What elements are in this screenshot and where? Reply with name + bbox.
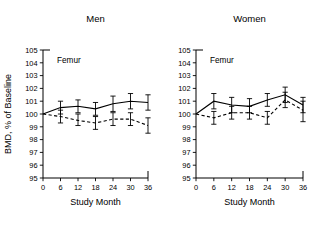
y-tick-label: 96: [29, 161, 37, 170]
x-tick-label: 12: [228, 183, 236, 192]
x-tick-label: 12: [74, 183, 82, 192]
y-tick-label: 101: [25, 97, 37, 106]
y-tick-label: 100: [25, 110, 37, 119]
y-tick-label: 99: [29, 123, 37, 132]
panel-title: Women: [233, 13, 266, 24]
series-solid-line-group: [43, 94, 151, 116]
panel-inner-label: Femur: [57, 56, 81, 65]
y-tick-label: 101: [178, 97, 190, 106]
x-tick-label: 36: [299, 183, 307, 192]
figure-container: 9596979899100101102103104105061218243036…: [0, 0, 319, 228]
x-axis-title: Study Month: [224, 197, 275, 207]
y-tick-label: 97: [182, 148, 190, 157]
y-tick-label: 97: [29, 148, 37, 157]
panel-men: 9596979899100101102103104105061218243036…: [3, 13, 152, 207]
y-tick-label: 102: [178, 84, 190, 93]
y-tick-label: 99: [182, 123, 190, 132]
x-tick-label: 18: [91, 183, 99, 192]
x-tick-label: 0: [41, 183, 45, 192]
chart-svg: 9596979899100101102103104105061218243036…: [0, 0, 319, 228]
y-tick-label: 105: [25, 46, 37, 55]
y-tick-label: 104: [178, 59, 190, 68]
y-tick-label: 105: [178, 46, 190, 55]
y-tick-label: 102: [25, 84, 37, 93]
x-axis-title: Study Month: [70, 197, 121, 207]
y-tick-label: 98: [29, 135, 37, 144]
y-tick-label: 95: [182, 174, 190, 183]
y-tick-label: 103: [25, 71, 37, 80]
series-solid-line-group: [196, 87, 306, 114]
x-tick-label: 36: [144, 183, 152, 192]
panel-title: Men: [86, 13, 104, 24]
x-tick-label: 24: [109, 183, 117, 192]
x-tick-label: 0: [194, 183, 198, 192]
y-tick-label: 100: [178, 110, 190, 119]
x-tick-label: 6: [58, 183, 62, 192]
y-tick-label: 98: [182, 135, 190, 144]
y-tick-label: 96: [182, 161, 190, 170]
x-tick-label: 30: [126, 183, 134, 192]
panel-women: 9596979899100101102103104105061218243036…: [178, 13, 307, 207]
y-axis-title: BMD, % of Baseline: [3, 74, 13, 154]
x-tick-label: 30: [281, 183, 289, 192]
y-tick-label: 95: [29, 174, 37, 183]
y-tick-label: 104: [25, 59, 37, 68]
y-tick-label: 103: [178, 71, 190, 80]
panel-inner-label: Femur: [210, 56, 234, 65]
x-tick-label: 18: [245, 183, 253, 192]
x-tick-label: 6: [212, 183, 216, 192]
x-tick-label: 24: [263, 183, 271, 192]
